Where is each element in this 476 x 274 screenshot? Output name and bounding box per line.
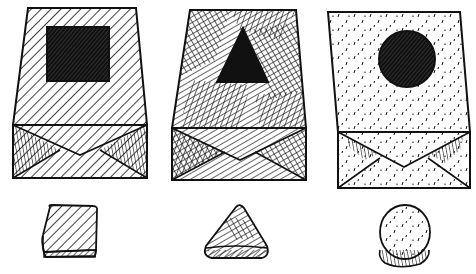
- bag-flap: [172, 128, 306, 180]
- disc-object: [380, 205, 430, 267]
- circle-cutout: [379, 31, 435, 87]
- bag-circle: [328, 12, 470, 188]
- bag-flap: [13, 125, 147, 178]
- pyramid-object: [205, 205, 268, 258]
- square-cutout: [47, 27, 109, 81]
- bag-square: [13, 8, 147, 178]
- illustration-canvas: [0, 0, 476, 274]
- bag-flap: [338, 132, 470, 188]
- bag-triangle: [172, 10, 306, 180]
- cube-object: [42, 205, 97, 257]
- bags-and-shapes-illustration: [0, 0, 476, 274]
